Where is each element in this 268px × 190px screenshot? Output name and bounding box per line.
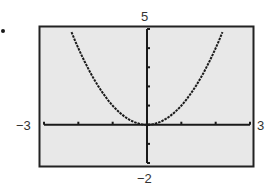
x-max-label: 3 — [257, 119, 264, 132]
y-min-label: −2 — [137, 172, 152, 185]
y-max-label: 5 — [141, 10, 148, 23]
x-min-label: −3 — [16, 119, 31, 132]
graph-window — [0, 0, 268, 190]
